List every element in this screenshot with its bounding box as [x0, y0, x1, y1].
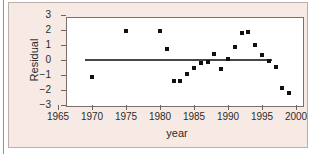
y-tick-mark	[61, 75, 66, 76]
y-tick-label: 3	[9, 10, 51, 20]
y-tick-mark	[61, 90, 66, 91]
scatter-point	[212, 52, 216, 56]
y-axis-title: Residual	[28, 29, 40, 91]
x-axis-title: year	[58, 127, 296, 139]
scatter-point	[226, 57, 230, 61]
scatter-point	[280, 86, 284, 90]
x-tick-mark	[58, 105, 59, 110]
scatter-point	[267, 59, 271, 63]
y-tick-label: −3	[9, 100, 51, 110]
y-tick-mark	[61, 45, 66, 46]
x-tick-mark	[296, 105, 297, 110]
scatter-point	[178, 79, 182, 83]
x-tick-mark	[126, 105, 127, 110]
residual-plot-figure: 3210−1−2−3 19651970197519801985199019952…	[0, 0, 316, 154]
scatter-point	[165, 47, 169, 51]
page-left-rule	[3, 0, 4, 154]
y-tick-mark	[61, 60, 66, 61]
scatter-point	[287, 91, 291, 95]
scatter-point	[124, 29, 128, 33]
x-tick-mark	[92, 105, 93, 110]
scatter-point	[260, 53, 264, 57]
scatter-point	[240, 31, 244, 35]
x-tick-mark	[194, 105, 195, 110]
scatter-point	[185, 72, 189, 76]
scatter-point	[158, 29, 162, 33]
y-tick-mark	[61, 30, 66, 31]
scatter-point	[172, 79, 176, 83]
scatter-point	[206, 60, 210, 64]
scatter-point	[274, 65, 278, 69]
reference-trend-line	[85, 59, 272, 61]
scatter-point	[246, 30, 250, 34]
scatter-point	[90, 75, 94, 79]
scatter-point	[199, 61, 203, 65]
x-tick-mark	[262, 105, 263, 110]
scatter-point	[219, 67, 223, 71]
scatter-point	[233, 45, 237, 49]
scatter-point	[192, 66, 196, 70]
x-tick-label: 2000	[276, 111, 316, 122]
chart-panel: 3210−1−2−3 19651970197519801985199019952…	[8, 2, 308, 148]
y-tick-mark	[61, 105, 66, 106]
x-tick-mark	[160, 105, 161, 110]
scatter-point	[253, 43, 257, 47]
y-tick-mark	[61, 15, 66, 16]
x-tick-mark	[228, 105, 229, 110]
